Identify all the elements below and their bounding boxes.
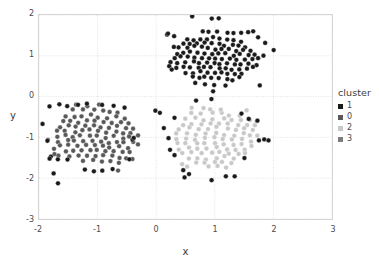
x-tick-label: -1 <box>89 225 105 234</box>
y-tick-label: -2 <box>18 174 34 183</box>
y-tick-label: -1 <box>18 133 34 142</box>
y-tick-label: 0 <box>18 91 34 100</box>
legend-swatch <box>338 137 343 142</box>
x-axis-title: x <box>0 246 371 257</box>
legend-item[interactable]: 2 <box>338 123 379 133</box>
legend-swatch <box>338 104 343 109</box>
y-axis-title: y <box>6 110 20 121</box>
legend-items: 1023 <box>338 101 379 144</box>
legend-item-label: 0 <box>347 112 352 122</box>
plot-canvas <box>39 15 332 219</box>
x-tick-label: 1 <box>207 225 223 234</box>
x-tick-label: 0 <box>148 225 164 234</box>
legend-item-label: 1 <box>347 101 352 111</box>
scatter-plot-figure: -3-2-1012 -2-10123 y x cluster 1023 <box>0 0 379 268</box>
legend-item[interactable]: 1 <box>338 101 379 111</box>
legend-swatch <box>338 126 343 131</box>
legend-item[interactable]: 3 <box>338 134 379 144</box>
x-tick-label: -2 <box>30 225 46 234</box>
plot-panel <box>38 14 333 220</box>
legend-title: cluster <box>338 87 379 98</box>
legend: cluster 1023 <box>338 87 379 145</box>
series-0 <box>46 102 141 173</box>
x-tick-label: 2 <box>266 225 282 234</box>
x-tick-label: 3 <box>325 225 341 234</box>
legend-item[interactable]: 0 <box>338 112 379 122</box>
series-1 <box>40 15 276 186</box>
y-tick-label: -3 <box>18 215 34 224</box>
legend-item-label: 2 <box>347 123 352 133</box>
y-tick-label: 1 <box>18 50 34 59</box>
y-tick-label: 2 <box>18 9 34 18</box>
legend-swatch <box>338 115 343 120</box>
legend-item-label: 3 <box>347 134 352 144</box>
